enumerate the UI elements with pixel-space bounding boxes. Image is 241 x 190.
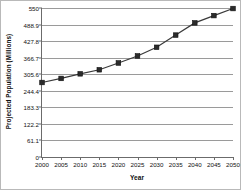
- x-tick-label: 2005: [54, 161, 68, 168]
- y-tick-label: 305.6: [24, 71, 39, 78]
- x-tick-label: 2045: [207, 161, 221, 168]
- x-tick-mark: [157, 157, 158, 160]
- y-tick-label: 183.3: [24, 104, 39, 111]
- x-axis-title: Year: [41, 174, 233, 181]
- x-tick-label: 2040: [188, 161, 202, 168]
- data-point-marker: [231, 6, 236, 11]
- x-tick-label: 2020: [112, 161, 126, 168]
- x-tick-mark: [233, 157, 234, 160]
- data-point-marker: [193, 21, 198, 26]
- x-tick-mark: [138, 157, 139, 160]
- x-tick-label: 2035: [169, 161, 183, 168]
- x-tick-label: 2025: [131, 161, 145, 168]
- y-tick-label: 366.7: [24, 54, 39, 61]
- chart-figure: Projected Population (Millions) 061.1122…: [0, 0, 241, 190]
- data-point-marker: [173, 33, 178, 38]
- data-point-marker: [97, 67, 102, 72]
- x-tick-mark: [214, 157, 215, 160]
- data-point-marker: [154, 45, 159, 50]
- y-axis-title: Projected Population (Millions): [2, 1, 16, 161]
- data-point-marker: [40, 80, 45, 85]
- x-tick-label: 2030: [150, 161, 164, 168]
- data-point-marker: [78, 72, 83, 77]
- y-tick-label: 122.2: [24, 120, 39, 127]
- x-tick-label: 2010: [73, 161, 87, 168]
- y-axis-title-text: Projected Population (Millions): [6, 33, 13, 128]
- x-tick-mark: [80, 157, 81, 160]
- data-point-marker: [116, 61, 121, 66]
- y-tick-label: 488.9: [24, 21, 39, 28]
- data-point-marker: [212, 13, 217, 18]
- x-tick-mark: [42, 157, 43, 160]
- x-tick-mark: [61, 157, 62, 160]
- x-tick-label: 2015: [92, 161, 106, 168]
- x-tick-mark: [195, 157, 196, 160]
- x-tick-label: 2000: [35, 161, 49, 168]
- x-tick-mark: [176, 157, 177, 160]
- x-tick-mark: [118, 157, 119, 160]
- data-series-projected-population: [42, 8, 233, 157]
- data-point-marker: [59, 76, 64, 81]
- y-tick-label: 244.4: [24, 87, 39, 94]
- x-tick-label: 2050: [226, 161, 240, 168]
- y-tick-label: 61.1: [27, 137, 39, 144]
- plot-area: 061.1122.2183.3244.4305.6366.7427.8488.9…: [41, 8, 233, 158]
- y-tick-label: 427.8: [24, 38, 39, 45]
- x-tick-mark: [99, 157, 100, 160]
- series-line: [42, 9, 233, 83]
- y-tick-label: 0: [36, 154, 39, 161]
- y-tick-label: 550: [29, 5, 39, 12]
- data-point-marker: [135, 54, 140, 59]
